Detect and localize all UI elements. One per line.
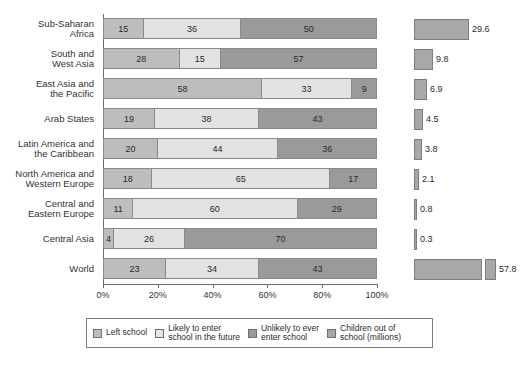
- stacked-bar: 233443: [103, 258, 377, 279]
- x-axis-tick-label: 80%: [313, 290, 331, 300]
- category-label-line: the Caribbean: [34, 149, 94, 160]
- children-out-of-school-value: 9.8: [436, 54, 449, 64]
- x-axis-tick-label: 40%: [204, 290, 222, 300]
- stacked-bar-row: 153650: [103, 14, 377, 44]
- bar-segment: 9: [352, 78, 377, 99]
- stacked-bar: 116029: [103, 198, 377, 219]
- legend-label-line: school (millions): [340, 333, 401, 343]
- legend-label-line: school in the future: [168, 333, 240, 343]
- x-axis-tick-label: 60%: [258, 290, 276, 300]
- legend-label: Unlikely to everenter school: [261, 324, 319, 343]
- legend-label: Left school: [106, 328, 147, 338]
- stacked-bar-row: 58339: [103, 74, 377, 104]
- category-label: Central Asia: [0, 224, 98, 254]
- x-axis-tick-label: 0%: [96, 290, 109, 300]
- bar-segment: 15: [103, 18, 144, 39]
- stacked-bar-row: 186517: [103, 164, 377, 194]
- bar-segment-value: 58: [177, 84, 187, 94]
- percent-stacked-plot-area: 0%20%40%60%80%100% 153650281557583391938…: [103, 14, 377, 284]
- children-out-of-school-bar: [414, 259, 482, 280]
- bar-segment: 23: [103, 258, 166, 279]
- bar-segment-value: 23: [130, 264, 140, 274]
- stacked-bar: 281557: [103, 48, 377, 69]
- children-out-of-school-bar: [414, 169, 419, 190]
- legend-item: Children out ofschool (millions): [327, 324, 401, 343]
- bar-segment: 60: [133, 198, 297, 219]
- legend-label-line: Left school: [106, 328, 147, 338]
- bar-segment: 26: [114, 228, 185, 249]
- category-label: North America andWestern Europe: [0, 164, 98, 194]
- children-out-of-school-value: 4.5: [426, 114, 439, 124]
- bar-segment: 15: [180, 48, 221, 69]
- children-out-of-school-bar-row: 9.8: [414, 44, 449, 74]
- category-label-line: Central Asia: [43, 234, 94, 245]
- bar-segment-value: 36: [322, 144, 332, 154]
- bar-segment-value: 43: [313, 114, 323, 124]
- category-label: East Asia andthe Pacific: [0, 74, 98, 104]
- stacked-bar-chart-figure: Sub-SaharanAfricaSouth andWest AsiaEast …: [0, 0, 520, 368]
- bar-segment: 17: [330, 168, 377, 189]
- legend-swatch: [93, 329, 102, 338]
- bar-segment: 44: [158, 138, 279, 159]
- category-label-line: the Pacific: [50, 89, 94, 100]
- children-out-of-school-bar: [414, 49, 433, 70]
- stacked-bar: 186517: [103, 168, 377, 189]
- category-axis-labels: Sub-SaharanAfricaSouth andWest AsiaEast …: [0, 14, 98, 284]
- children-out-of-school-bar: [414, 139, 422, 160]
- bar-segment: 11: [103, 198, 133, 219]
- bar-segment: 43: [259, 108, 377, 129]
- category-label-line: West Asia: [52, 59, 94, 70]
- category-label: South andWest Asia: [0, 44, 98, 74]
- category-label-line: World: [69, 264, 94, 275]
- children-out-of-school-bar-row: 6.9: [414, 74, 443, 104]
- bar-segment-value: 44: [213, 144, 223, 154]
- bar-segment: 70: [185, 228, 377, 249]
- stacked-bar-row: 281557: [103, 44, 377, 74]
- category-label: Latin America andthe Caribbean: [0, 134, 98, 164]
- x-axis-tick-label: 20%: [149, 290, 167, 300]
- children-out-of-school-bar-row: 3.8: [414, 134, 438, 164]
- children-out-of-school-bar: [414, 19, 469, 40]
- bar-segment: 33: [262, 78, 352, 99]
- legend-swatch: [248, 329, 257, 338]
- children-out-of-school-value: 57.8: [499, 264, 517, 274]
- bar-segment: 36: [144, 18, 242, 39]
- bar-segment: 18: [103, 168, 152, 189]
- category-label-line: Arab States: [44, 114, 94, 125]
- chart-legend: Left schoolLikely to enterschool in the …: [86, 318, 433, 348]
- bar-segment: 38: [155, 108, 259, 129]
- bar-segment: 29: [298, 198, 377, 219]
- bar-segment: 43: [259, 258, 377, 279]
- stacked-bar: 42670: [103, 228, 377, 249]
- bar-segment-value: 33: [302, 84, 312, 94]
- bar-segment: 19: [103, 108, 155, 129]
- children-out-of-school-bar-row: 2.1: [414, 164, 435, 194]
- bar-segment-value: 65: [236, 174, 246, 184]
- children-out-of-school-value: 3.8: [425, 144, 438, 154]
- category-label-line: Western Europe: [26, 179, 94, 190]
- bar-segment-value: 28: [136, 54, 146, 64]
- children-out-of-school-value: 0.3: [420, 234, 433, 244]
- x-axis-line: [103, 284, 378, 285]
- stacked-bar: 193843: [103, 108, 377, 129]
- stacked-bar-row: 116029: [103, 194, 377, 224]
- bar-segment: 57: [221, 48, 377, 69]
- bar-segment-value: 29: [332, 204, 342, 214]
- children-out-of-school-value: 0.8: [420, 204, 433, 214]
- x-axis-tick: [213, 284, 214, 288]
- bar-segment-value: 38: [202, 114, 212, 124]
- bar-segment-value: 70: [276, 234, 286, 244]
- children-out-of-school-bar-row: 0.8: [414, 194, 433, 224]
- category-label-line: Africa: [70, 29, 94, 40]
- bar-segment-value: 43: [313, 264, 323, 274]
- children-out-of-school-value: 2.1: [422, 174, 435, 184]
- legend-item: Left school: [93, 328, 147, 338]
- stacked-bar-row: 193843: [103, 104, 377, 134]
- bar-segment-value: 26: [144, 234, 154, 244]
- bar-segment: 36: [278, 138, 377, 159]
- bar-segment: 65: [152, 168, 330, 189]
- bar-segment-value: 60: [210, 204, 220, 214]
- bar-segment-value: 17: [348, 174, 358, 184]
- stacked-bar-row: 233443: [103, 254, 377, 284]
- x-axis-tick-label: 100%: [365, 290, 388, 300]
